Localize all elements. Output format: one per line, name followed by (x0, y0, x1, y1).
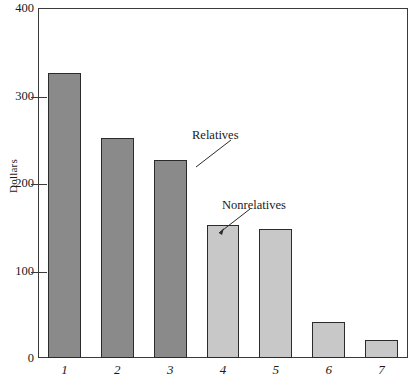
y-tick-label-100: 100 (0, 263, 34, 278)
y-tick-label-200: 200 (0, 176, 34, 191)
bar-category-1 (48, 73, 81, 358)
annotation-relatives: Relatives (192, 128, 239, 143)
x-tick-label-1: 1 (61, 362, 68, 378)
x-tick-label-5: 5 (273, 362, 280, 378)
bar-category-6 (312, 322, 345, 358)
x-tick-label-7: 7 (378, 362, 385, 378)
y-tick-label-400: 400 (0, 1, 34, 16)
bar-category-5 (259, 229, 292, 359)
bar-category-4 (207, 225, 240, 358)
bar-chart: Dollars 400 300 200 100 0 1 2 3 4 5 6 7 … (0, 0, 415, 387)
x-tick-label-3: 3 (167, 362, 174, 378)
x-tick-label-4: 4 (220, 362, 227, 378)
bar-category-3 (154, 160, 187, 358)
x-tick-label-2: 2 (114, 362, 121, 378)
bars-layer (38, 8, 408, 358)
bar-category-2 (101, 138, 134, 358)
bar-category-7 (365, 340, 398, 358)
x-tick-label-6: 6 (325, 362, 332, 378)
annotation-nonrelatives: Nonrelatives (222, 198, 286, 213)
y-tick-label-0: 0 (0, 351, 34, 366)
y-tick-label-300: 300 (0, 88, 34, 103)
